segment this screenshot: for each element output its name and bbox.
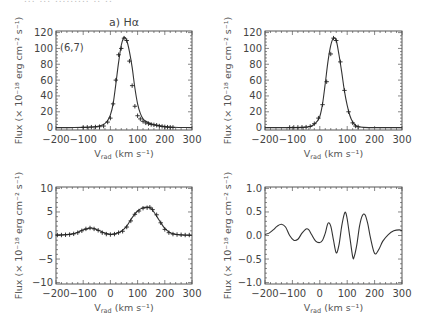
x-tick-label: 100: [338, 134, 357, 145]
panel-top-left: −200−1000100200300020406080100120Vrad (k…: [13, 16, 202, 161]
data-point-marker: [183, 233, 187, 237]
y-tick-label: 60: [249, 75, 262, 86]
y-axis-label: Flux (× 10⁻¹⁸ erg cm⁻² s⁻¹): [222, 17, 233, 145]
y-tick-label: −1.0: [238, 277, 262, 288]
y-tick-label: 120: [34, 27, 53, 38]
x-tick-label: 0: [317, 134, 323, 145]
x-tick-label: 0: [107, 134, 113, 145]
y-tick-label: 60: [40, 75, 53, 86]
data-point-marker: [101, 124, 105, 128]
plot-frame: [265, 187, 402, 284]
data-point-marker: [116, 230, 120, 234]
data-point-marker: [342, 88, 346, 92]
data-point-marker: [133, 104, 137, 108]
data-point-marker: [120, 229, 124, 233]
data-point-marker: [175, 232, 179, 236]
data-point-marker: [112, 232, 116, 236]
x-tick-label: 100: [338, 288, 357, 299]
data-point-marker: [89, 125, 93, 129]
x-tick-label: 300: [182, 288, 201, 299]
x-tick-label: 300: [392, 288, 411, 299]
data-point-marker: [105, 120, 109, 124]
series-model: [265, 38, 402, 128]
x-tick-label: −100: [69, 134, 96, 145]
data-point-marker: [346, 110, 350, 114]
panel-title: a) Hα: [109, 16, 139, 29]
y-axis-label: Flux (× 10⁻¹⁸ erg cm⁻² s⁻¹): [13, 172, 24, 300]
y-tick-label: 0: [47, 122, 53, 133]
data-point-marker: [296, 125, 300, 129]
y-tick-label: 0: [47, 230, 53, 241]
x-tick-label: −200: [42, 288, 69, 299]
data-point-marker: [119, 46, 123, 50]
data-point-marker: [114, 78, 118, 82]
data-point-marker: [135, 114, 139, 118]
data-point-marker: [338, 60, 342, 64]
y-tick-label: 120: [243, 27, 262, 38]
x-tick-label: 0: [107, 288, 113, 299]
data-point-marker: [81, 125, 85, 129]
y-tick-label: 40: [249, 90, 262, 101]
y-tick-label: −0.5: [238, 254, 262, 265]
panel-top-right: −200−1000100200300020406080100120Vrad (k…: [222, 17, 412, 161]
x-tick-label: 300: [182, 134, 201, 145]
data-point-marker: [96, 228, 100, 232]
x-tick-label: −100: [279, 288, 306, 299]
y-tick-label: 80: [249, 59, 262, 70]
x-tick-label: −100: [69, 288, 96, 299]
y-tick-label: 5: [47, 206, 53, 217]
data-point-marker: [334, 38, 338, 42]
data-point-marker: [67, 232, 71, 236]
x-axis-label: Vrad (km s⁻¹): [304, 302, 363, 315]
data-point-marker: [84, 227, 88, 231]
x-axis-label: Vrad (km s⁻¹): [304, 148, 363, 161]
data-point-marker: [287, 125, 291, 129]
data-point-marker: [154, 123, 158, 127]
y-tick-label: 80: [40, 59, 53, 70]
plot-frame: [265, 31, 402, 130]
y-tick-label: −5: [38, 254, 53, 265]
x-tick-label: 200: [155, 288, 174, 299]
y-axis-label: Flux (× 10⁻¹⁸ erg cm⁻² s⁻¹): [222, 172, 233, 300]
x-tick-label: 200: [365, 134, 384, 145]
data-point-marker: [171, 232, 175, 236]
y-tick-label: 100: [243, 43, 262, 54]
panel-bottom-left: −200−1000100200300−10−50510Vrad (km s⁻¹)…: [13, 172, 202, 315]
figure: −200−1000100200300020406080100120Vrad (k…: [0, 0, 422, 328]
y-tick-label: 0.0: [246, 230, 262, 241]
y-tick-label: 40: [40, 90, 53, 101]
panel-bottom-right: −200−1000100200300−1.0−0.50.00.51.0Vrad …: [222, 172, 412, 315]
y-tick-label: 20: [249, 106, 262, 117]
data-point-marker: [108, 232, 112, 236]
data-point-marker: [63, 233, 67, 237]
y-tick-label: 10: [40, 183, 53, 194]
x-axis-label: Vrad (km s⁻¹): [94, 302, 153, 315]
x-tick-label: −200: [251, 134, 278, 145]
data-point-marker: [141, 206, 145, 210]
x-tick-label: −100: [279, 134, 306, 145]
data-point-marker: [163, 227, 167, 231]
x-tick-label: −200: [251, 288, 278, 299]
data-point-marker: [59, 233, 63, 237]
x-tick-label: 100: [128, 288, 147, 299]
series-residual: [265, 212, 402, 259]
data-point-marker: [145, 206, 149, 210]
y-tick-label: 1.0: [246, 183, 262, 194]
data-point-marker: [304, 125, 308, 129]
data-point-marker: [171, 125, 175, 129]
data-point-marker: [92, 227, 96, 231]
y-tick-label: 20: [40, 106, 53, 117]
data-point-marker: [356, 125, 360, 129]
plot-frame: [56, 187, 192, 284]
data-point-marker: [320, 102, 324, 106]
y-tick-label: 0.5: [246, 206, 262, 217]
x-tick-label: 200: [365, 288, 384, 299]
data-point-marker: [130, 83, 134, 87]
data-point-marker: [111, 102, 115, 106]
x-tick-label: 100: [128, 134, 147, 145]
data-point-marker: [88, 226, 92, 230]
panel-annotation: (6,7): [60, 42, 84, 53]
data-point-marker: [187, 233, 191, 237]
data-point-marker: [71, 232, 75, 236]
data-point-marker: [125, 38, 129, 42]
